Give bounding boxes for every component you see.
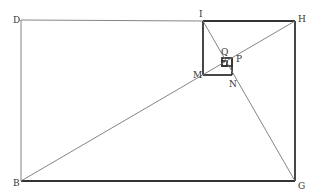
label-G: G xyxy=(298,181,305,191)
label-P: P xyxy=(236,54,242,64)
label-M: M xyxy=(193,70,202,80)
label-I: I xyxy=(199,9,203,19)
diagonals xyxy=(21,21,295,181)
golden-rectangle-spiral-diagram: D I H B G M N P Q xyxy=(0,0,318,195)
label-B: B xyxy=(13,178,20,188)
label-N: N xyxy=(229,79,237,89)
label-D: D xyxy=(13,15,20,25)
label-H: H xyxy=(298,14,306,24)
outer-rectangle xyxy=(21,20,203,181)
label-Q: Q xyxy=(221,47,228,57)
